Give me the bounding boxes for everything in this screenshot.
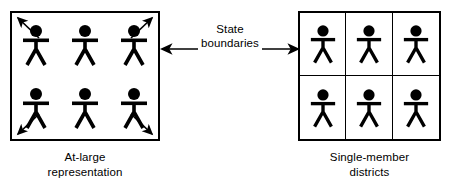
state-boundaries-label-line1: State (160, 22, 300, 36)
at-large-figure-grid (12, 13, 158, 139)
single-member-districts-grid (298, 11, 441, 141)
district-cell-5 (346, 76, 392, 139)
person-cell (61, 76, 110, 139)
person-icon (70, 87, 100, 129)
district-cell-3 (393, 13, 439, 76)
person-icon (21, 24, 51, 66)
person-cell (61, 13, 110, 76)
person-icon (21, 87, 51, 129)
person-icon (309, 88, 337, 128)
state-boundaries-label-line2: boundaries (160, 36, 300, 50)
person-cell (109, 76, 158, 139)
person-icon (402, 24, 430, 64)
person-icon (70, 24, 100, 66)
district-cell-2 (346, 13, 392, 76)
districts-caption: Single-member districts (298, 150, 441, 180)
districts-caption-line2: districts (298, 165, 441, 180)
person-icon (355, 88, 383, 128)
state-boundaries-group: State boundaries (160, 22, 300, 82)
at-large-box (10, 11, 160, 141)
person-cell (109, 13, 158, 76)
person-icon (402, 88, 430, 128)
at-large-caption-line2: representation (10, 165, 160, 180)
at-large-caption-line1: At-large (10, 150, 160, 165)
state-boundaries-label: State boundaries (160, 22, 300, 50)
districts-caption-line1: Single-member (298, 150, 441, 165)
diagram-root: State boundaries (0, 0, 454, 191)
person-icon (119, 87, 149, 129)
person-icon (355, 24, 383, 64)
district-cell-1 (300, 13, 346, 76)
person-cell (12, 13, 61, 76)
person-cell (12, 76, 61, 139)
person-icon (119, 24, 149, 66)
district-cell-4 (300, 76, 346, 139)
at-large-caption: At-large representation (10, 150, 160, 180)
person-icon (309, 24, 337, 64)
district-cell-6 (393, 76, 439, 139)
